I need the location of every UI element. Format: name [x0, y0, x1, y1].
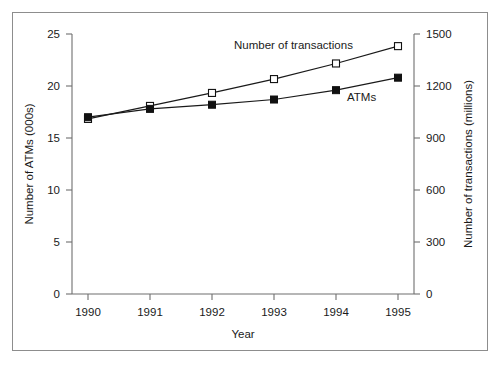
- x-tick-label-1993: 1993: [261, 306, 287, 318]
- data-point-1994: [333, 60, 340, 67]
- left-tick-label-15: 15: [47, 132, 60, 144]
- data-point-1993: [271, 76, 278, 83]
- data-point-1992: [209, 101, 216, 108]
- data-point-1992: [209, 89, 216, 96]
- x-tick-label-1994: 1994: [323, 306, 349, 318]
- right-tick-label-300: 300: [426, 236, 445, 248]
- x-tick-label-1990: 1990: [75, 306, 101, 318]
- series-atms-annotation: ATMs: [347, 91, 376, 103]
- x-tick-label-1992: 1992: [199, 306, 225, 318]
- series-atms: ATMs: [85, 74, 402, 121]
- x-tick-label-1995: 1995: [385, 306, 411, 318]
- data-point-1994: [333, 87, 340, 94]
- series-transactions-annotation: Number of transactions: [234, 39, 353, 51]
- data-point-1995: [395, 74, 402, 81]
- chart-plot-area: 25 20 15 10 5 0 Number of ATMs (000s) 15…: [0, 0, 502, 365]
- left-tick-label-0: 0: [54, 288, 60, 300]
- x-axis-title: Year: [231, 328, 254, 340]
- data-point-1990: [85, 114, 92, 121]
- series-transactions: Number of transactions: [85, 39, 402, 122]
- data-point-1995: [395, 43, 402, 50]
- left-axis: 25 20 15 10 5 0 Number of ATMs (000s): [23, 28, 72, 300]
- right-tick-label-900: 900: [426, 132, 445, 144]
- series-transactions-markers: [85, 43, 402, 123]
- series-transactions-line: [88, 46, 398, 119]
- x-axis: 1990 1991 1992 1993 1994 1995 Year: [72, 294, 414, 340]
- right-axis: 1500 1200 900 600 300 0 Number of transa…: [414, 28, 474, 300]
- right-tick-label-1500: 1500: [426, 28, 452, 40]
- chart-figure: 25 20 15 10 5 0 Number of ATMs (000s) 15…: [0, 0, 502, 365]
- right-tick-label-0: 0: [426, 288, 432, 300]
- x-tick-label-1991: 1991: [137, 306, 163, 318]
- right-tick-label-1200: 1200: [426, 80, 452, 92]
- right-axis-title: Number of transactions (millions): [462, 80, 474, 248]
- left-tick-label-5: 5: [54, 236, 60, 248]
- left-tick-label-20: 20: [47, 80, 60, 92]
- left-axis-title: Number of ATMs (000s): [23, 103, 35, 224]
- data-point-1993: [271, 96, 278, 103]
- left-tick-label-25: 25: [47, 28, 60, 40]
- data-point-1991: [147, 105, 154, 112]
- right-tick-label-600: 600: [426, 184, 445, 196]
- left-tick-label-10: 10: [47, 184, 60, 196]
